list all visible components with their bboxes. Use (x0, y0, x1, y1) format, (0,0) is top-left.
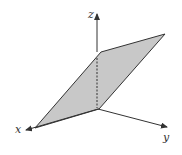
x-axis-label: x (15, 123, 22, 136)
y-axis (98, 109, 167, 127)
z-axis-label: z (87, 8, 94, 21)
y-axis-label: y (162, 131, 170, 144)
plane (35, 34, 165, 128)
coordinate-diagram: z x y (0, 0, 182, 155)
